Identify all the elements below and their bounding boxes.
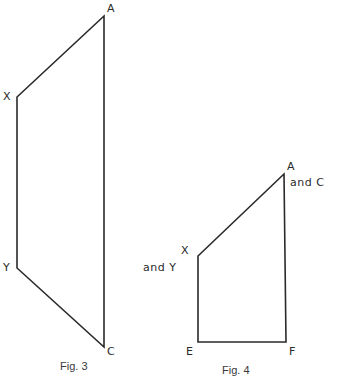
diagram-canvas xyxy=(0,0,352,382)
fig4-vertex-sublabel-and-c: and C xyxy=(290,177,324,189)
fig3-vertex-label-c: C xyxy=(107,346,115,358)
figure-3-shape xyxy=(17,16,104,347)
fig4-vertex-label-a: A xyxy=(287,161,295,173)
fig4-vertex-label-x: X xyxy=(181,245,189,257)
fig4-caption: Fig. 4 xyxy=(222,364,250,376)
fig4-vertex-label-f: F xyxy=(289,346,296,358)
fig4-vertex-sublabel-and-y: and Y xyxy=(143,262,176,274)
fig3-vertex-label-x: X xyxy=(3,91,11,103)
fig3-vertex-label-y: Y xyxy=(3,262,10,274)
fig4-quadrilateral xyxy=(198,174,286,342)
fig3-vertex-label-a: A xyxy=(107,3,115,15)
fig3-caption: Fig. 3 xyxy=(60,360,88,372)
figure-4-shape xyxy=(198,174,286,342)
fig4-vertex-label-e: E xyxy=(186,346,193,358)
fig3-quadrilateral xyxy=(17,16,104,347)
